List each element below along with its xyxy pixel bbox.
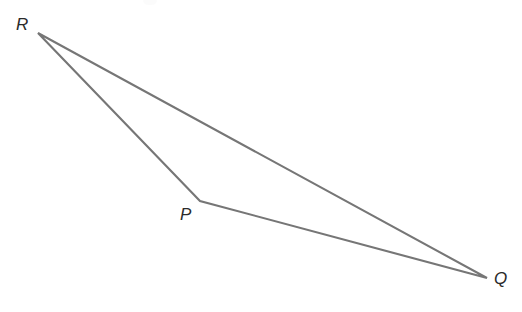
triangle-diagram-canvas	[0, 0, 522, 312]
vertex-label-r: R	[16, 16, 28, 33]
figure-background	[0, 0, 522, 312]
vertex-label-p: P	[180, 206, 191, 223]
geometry-figure: R P Q	[0, 0, 522, 312]
vertex-label-q: Q	[494, 270, 507, 287]
